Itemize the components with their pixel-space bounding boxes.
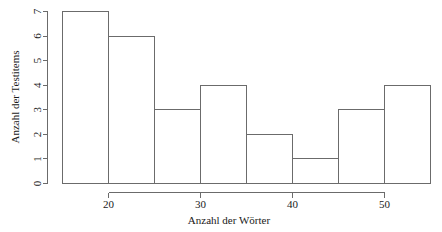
y-tick-label-4: 4 [31, 82, 43, 88]
histogram-figure: 0 1 2 3 4 5 6 7 Anzahl der Testitems [0, 0, 442, 232]
bar-bin-40-45 [293, 159, 339, 184]
x-axis-ticks [109, 193, 385, 198]
y-tick-label-2: 2 [31, 132, 43, 138]
y-tick-label-3: 3 [31, 107, 43, 113]
x-tick-label-20: 20 [103, 198, 115, 210]
x-axis-title: Anzahl der Wörter [188, 214, 271, 226]
y-axis-tick-labels: 0 1 2 3 4 5 6 7 [31, 8, 43, 186]
x-tick-label-50: 50 [379, 198, 391, 210]
x-tick-label-30: 30 [195, 198, 207, 210]
y-tick-label-7: 7 [31, 8, 43, 14]
x-axis-tick-labels: 20 30 40 50 [103, 198, 391, 210]
histogram-bars [63, 12, 431, 184]
bar-bin-15-20 [63, 12, 109, 184]
bar-bin-25-30 [155, 110, 201, 184]
y-axis-title: Anzahl der Testitems [9, 50, 21, 143]
bar-bin-35-40 [247, 134, 293, 183]
y-tick-label-6: 6 [31, 33, 43, 39]
y-axis-ticks [43, 12, 48, 184]
y-tick-label-0: 0 [31, 180, 43, 186]
x-tick-label-40: 40 [287, 198, 299, 210]
bar-bin-45-50 [339, 110, 385, 184]
y-tick-label-1: 1 [31, 156, 43, 162]
bar-bin-50-55 [385, 85, 431, 183]
bar-bin-20-25 [109, 36, 155, 183]
y-tick-label-5: 5 [31, 57, 43, 63]
bar-bin-30-35 [201, 85, 247, 183]
histogram-plot: 0 1 2 3 4 5 6 7 Anzahl der Testitems [0, 0, 442, 232]
